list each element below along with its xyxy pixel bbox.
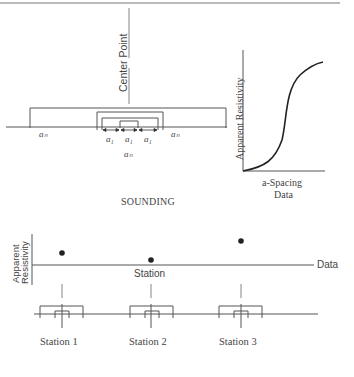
station-3-label: Station 3 — [219, 336, 257, 347]
station-1-array — [40, 304, 83, 328]
data-point-station-3 — [238, 238, 244, 244]
a-n-right-label: aₙ — [171, 129, 180, 139]
data-label: Data — [317, 259, 338, 270]
data-point-station-1 — [59, 250, 65, 256]
sounding-curve — [243, 62, 323, 171]
center-point-label: Center Point — [117, 34, 129, 92]
profiling-y-label-line2: Resistivity — [20, 241, 30, 284]
a1-label-2: a₁ — [125, 134, 133, 144]
a-n-bottom-label: aₙ — [124, 149, 133, 159]
station-3-array — [219, 304, 262, 328]
sounding-x-label-line1: a-Spacing — [262, 177, 302, 188]
a1-label-3: a₁ — [144, 134, 152, 144]
station-2-label: Station 2 — [129, 336, 167, 347]
a1-label-1: a₁ — [106, 134, 114, 144]
diagram-canvas — [0, 0, 354, 377]
sounding-x-label-line2: Data — [274, 189, 293, 200]
sounding-y-label: Apparent Resistivity — [234, 78, 245, 161]
spacing-arrows — [103, 129, 157, 132]
station-axis-label: Station — [134, 268, 165, 279]
inner-electrode-bracket — [102, 118, 158, 130]
a-n-left-label: aₙ — [39, 129, 48, 139]
sounding-title: SOUNDING — [121, 196, 175, 207]
station-2-array — [130, 304, 173, 328]
data-point-station-2 — [148, 257, 154, 263]
station-1-label: Station 1 — [40, 336, 78, 347]
